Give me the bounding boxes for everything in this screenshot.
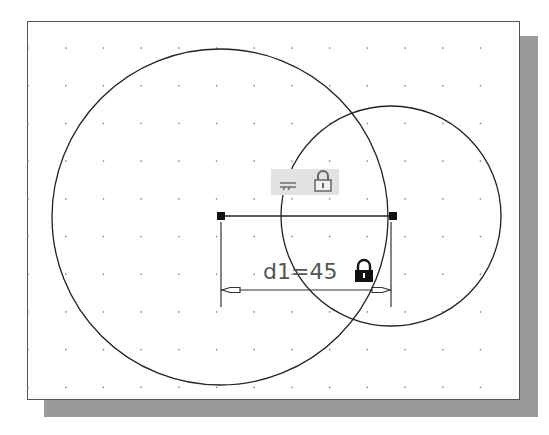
arrowhead-left-icon [222, 288, 240, 293]
grid-dots [27, 47, 481, 388]
dimension-lock-icon [355, 260, 373, 282]
dimension-label[interactable]: d1=45 [263, 259, 337, 285]
endpoint-left[interactable] [217, 212, 225, 220]
arrowhead-right-icon [372, 288, 390, 293]
endpoint-right[interactable] [389, 212, 397, 220]
sketch-canvas[interactable] [0, 0, 549, 435]
horizontal-relation-tag[interactable] [271, 169, 339, 195]
